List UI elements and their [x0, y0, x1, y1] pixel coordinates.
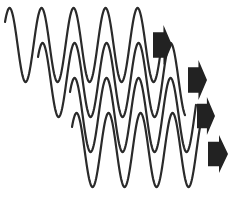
- arrow-4-right-arrow-icon: [208, 135, 228, 173]
- wave-diagram: [0, 0, 229, 200]
- arrow-2-right-arrow-icon: [188, 60, 207, 100]
- diagram-canvas: [0, 0, 229, 200]
- arrow-1-right-arrow-icon: [153, 25, 172, 65]
